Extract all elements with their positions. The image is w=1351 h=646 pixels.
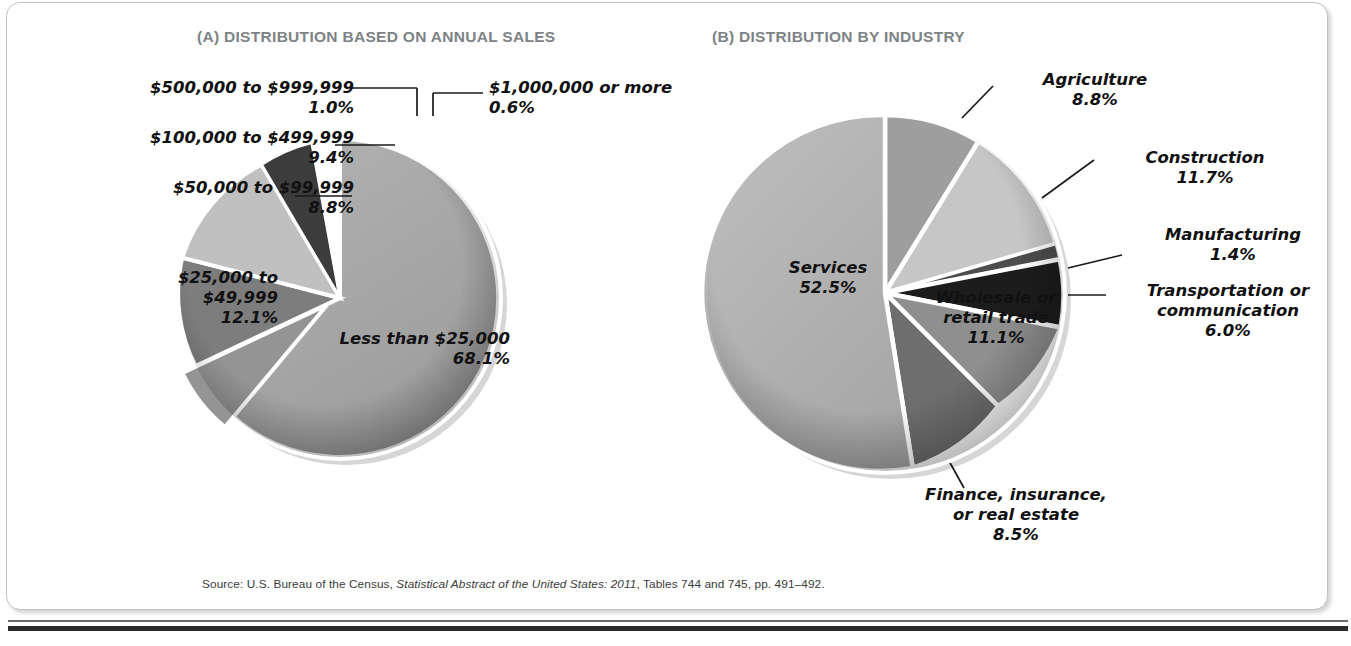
label-construction-pct: 11.7% xyxy=(1100,168,1310,188)
label-transportation-pct: 6.0% xyxy=(1112,321,1344,341)
label-services-pct: 52.5% xyxy=(748,278,908,298)
label-25000-49999-pct: 12.1% xyxy=(128,308,278,328)
label-agriculture-name: Agriculture xyxy=(1043,70,1148,89)
label-finance-pct: 8.5% xyxy=(866,525,1166,545)
label-50000-99999: $50,000 to $99,999 8.8% xyxy=(10,178,354,218)
label-finance-line2: or real estate xyxy=(866,505,1166,525)
figure-container: (A) DISTRIBUTION BASED ON ANNUAL SALES xyxy=(0,0,1351,646)
label-transportation-line2: communication xyxy=(1112,301,1344,321)
label-100000-499999: $100,000 to $499,999 9.4% xyxy=(14,128,354,168)
source-note: Source: U.S. Bureau of the Census, Stati… xyxy=(202,577,825,591)
label-finance-insurance-real-estate: Finance, insurance, or real estate 8.5% xyxy=(866,485,1166,545)
label-manufacturing-pct: 1.4% xyxy=(1128,245,1338,265)
label-finance-line1: Finance, insurance, xyxy=(925,485,1107,504)
label-50000-99999-pct: 8.8% xyxy=(10,198,354,218)
label-500000-999999: $500,000 to $999,999 1.0% xyxy=(24,78,354,118)
source-suffix: , Tables 744 and 745, pp. 491–492. xyxy=(636,577,824,591)
label-agriculture-pct: 8.8% xyxy=(1000,90,1190,110)
label-wholesale-pct: 11.1% xyxy=(916,328,1076,348)
label-100000-499999-name: $100,000 to $499,999 xyxy=(150,128,354,147)
label-25000-49999-line2: $49,999 xyxy=(128,288,278,308)
label-manufacturing-name: Manufacturing xyxy=(1165,225,1301,244)
bottom-rule-thin xyxy=(8,620,1348,622)
source-title: Statistical Abstract of the United State… xyxy=(396,577,636,591)
label-agriculture: Agriculture 8.8% xyxy=(1000,70,1190,110)
label-manufacturing: Manufacturing 1.4% xyxy=(1128,225,1338,265)
label-wholesale-line1: Wholesale or xyxy=(935,288,1056,307)
label-services: Services 52.5% xyxy=(748,258,908,298)
label-less-than-25000: Less than $25,000 68.1% xyxy=(300,329,510,369)
label-transportation-line1: Transportation or xyxy=(1147,281,1309,300)
panel-b-title: (B) DISTRIBUTION BY INDUSTRY xyxy=(712,28,965,46)
label-500000-999999-pct: 1.0% xyxy=(24,98,354,118)
label-100000-499999-pct: 9.4% xyxy=(14,148,354,168)
label-construction-name: Construction xyxy=(1145,148,1264,167)
bottom-rule-thick xyxy=(8,626,1348,631)
label-wholesale-retail-trade: Wholesale or retail trade 11.1% xyxy=(916,288,1076,348)
label-wholesale-line2: retail trade xyxy=(916,308,1076,328)
label-transportation-communication: Transportation or communication 6.0% xyxy=(1112,281,1344,341)
label-25000-49999-line1: $25,000 to xyxy=(178,268,278,287)
label-less-than-25000-pct: 68.1% xyxy=(300,349,510,369)
label-500000-999999-name: $500,000 to $999,999 xyxy=(150,78,354,97)
label-50000-99999-name: $50,000 to $99,999 xyxy=(173,178,354,197)
label-less-than-25000-name: Less than $25,000 xyxy=(339,329,510,348)
label-1000000-or-more-name: $1,000,000 or more xyxy=(489,78,672,97)
label-25000-49999: $25,000 to $49,999 12.1% xyxy=(128,268,278,328)
source-prefix: Source: U.S. Bureau of the Census, xyxy=(202,577,396,591)
label-construction: Construction 11.7% xyxy=(1100,148,1310,188)
label-services-name: Services xyxy=(789,258,867,277)
